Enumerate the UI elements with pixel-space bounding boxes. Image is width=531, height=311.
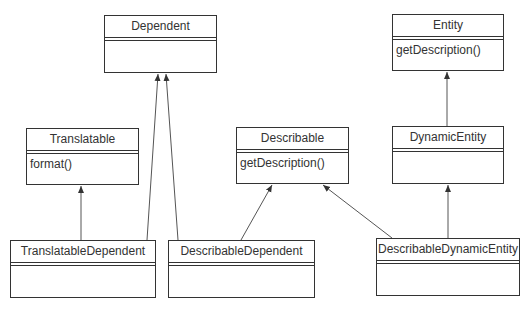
class-name: Describable: [237, 128, 348, 150]
class-name: Translatable: [27, 129, 138, 151]
edge-translatabledependent-dependent: [147, 74, 158, 240]
class-entity[interactable]: Entity getDescription(): [392, 14, 504, 71]
class-translatable-dependent[interactable]: TranslatableDependent: [10, 240, 156, 298]
edge-describabledependent-describable: [241, 185, 272, 240]
operations-compartment: [377, 264, 519, 267]
class-dependent[interactable]: Dependent: [104, 15, 217, 73]
operations-compartment: [393, 152, 503, 155]
edge-describabledynamicentity-describable: [323, 185, 392, 238]
operations-compartment: [105, 41, 216, 44]
operations-compartment: [169, 266, 314, 269]
class-name: TranslatableDependent: [11, 241, 155, 263]
class-name: DescribableDynamicEntity: [377, 239, 519, 261]
class-translatable[interactable]: Translatable format(): [26, 128, 139, 185]
class-describable-dynamic-entity[interactable]: DescribableDynamicEntity: [376, 238, 520, 296]
class-dynamic-entity[interactable]: DynamicEntity: [392, 126, 504, 184]
class-name: Entity: [393, 15, 503, 37]
class-name: DescribableDependent: [169, 241, 314, 263]
class-name: DynamicEntity: [393, 127, 503, 149]
class-describable-dependent[interactable]: DescribableDependent: [168, 240, 315, 298]
edge-describabledependent-dependent: [166, 74, 178, 240]
operation-getdescription: getDescription(): [393, 40, 503, 58]
operation-getdescription: getDescription(): [237, 153, 348, 171]
class-name: Dependent: [105, 16, 216, 38]
operations-compartment: [11, 266, 155, 269]
operation-format: format(): [27, 154, 138, 172]
class-describable[interactable]: Describable getDescription(): [236, 127, 349, 184]
